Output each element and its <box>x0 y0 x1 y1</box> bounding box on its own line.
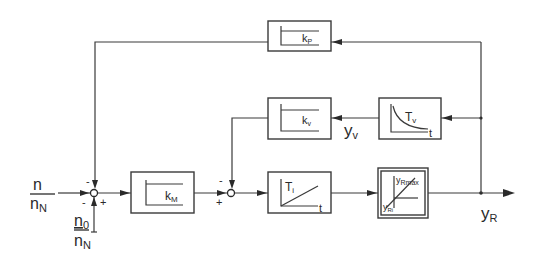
block-kp[interactable]: kP <box>268 21 331 51</box>
block-km[interactable]: kM <box>131 172 194 213</box>
svg-text:t: t <box>319 202 322 214</box>
svg-text:n: n <box>33 176 42 193</box>
input-label-n-over-nn: n nN <box>30 176 55 214</box>
control-block-diagram: kM Ti t yRmax yRi kP <box>0 0 540 266</box>
svg-text:t: t <box>429 127 432 139</box>
sign-sum1-bottom: + <box>100 196 106 208</box>
arrow-icon <box>120 190 130 196</box>
arrow-icon <box>229 180 235 189</box>
kp-to-sum1-line <box>95 42 268 185</box>
sign-sum2-left: + <box>216 196 222 208</box>
block-tv[interactable]: Tv t <box>379 98 441 139</box>
summing-junction-1 <box>91 190 98 197</box>
arrow-icon <box>503 189 515 197</box>
arrow-icon <box>442 115 452 121</box>
signal-label-yr: yR <box>481 204 498 224</box>
svg-text:nN: nN <box>30 195 47 214</box>
block-kv[interactable]: kv <box>268 98 331 139</box>
input-label-n0-over-nn: n0 nN <box>74 212 91 251</box>
arrow-icon <box>332 39 342 45</box>
svg-text:n0: n0 <box>74 212 89 231</box>
arrow-icon <box>257 190 267 196</box>
kv-to-sum2-line <box>232 118 268 186</box>
arrow-icon <box>91 197 97 206</box>
svg-text:nN: nN <box>74 232 91 251</box>
sign-sum2-top: - <box>219 174 223 186</box>
arrow-icon <box>332 115 342 121</box>
summing-junction-2 <box>228 190 235 197</box>
signal-label-yv: yv <box>344 121 359 141</box>
arrow-icon <box>367 190 377 196</box>
sign-sum1-left: - <box>82 196 86 208</box>
block-ti[interactable]: Ti t <box>268 172 331 214</box>
sign-sum1-top: - <box>86 175 90 187</box>
arrow-icon <box>92 180 98 189</box>
block-limiter[interactable]: yRmax yRi <box>378 168 428 218</box>
